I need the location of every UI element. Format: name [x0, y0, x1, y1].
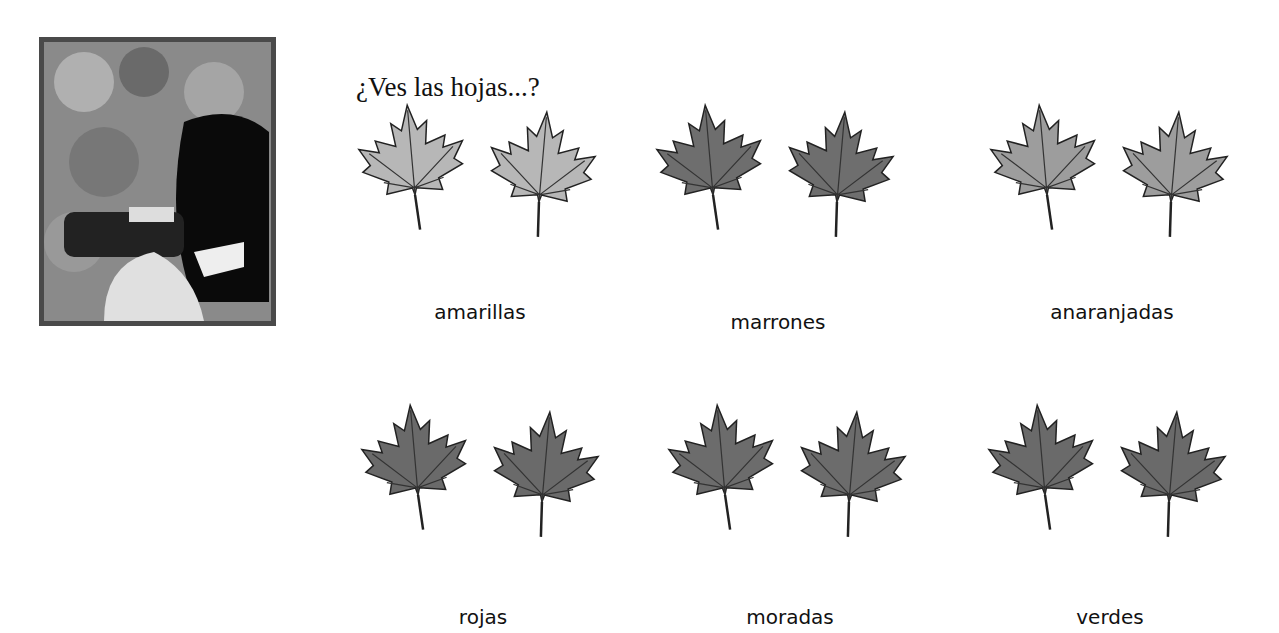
- leaf-color-label: amarillas: [330, 300, 630, 324]
- maple-leaves-icon: [340, 95, 620, 275]
- leaf-item-marrones: marrones: [628, 95, 928, 275]
- child-with-binoculars-photo: [39, 37, 276, 326]
- leaf-color-label: marrones: [628, 310, 928, 334]
- leaf-item-amarillas: amarillas: [330, 95, 630, 275]
- maple-leaves-icon: [343, 395, 623, 575]
- maple-leaves-icon: [970, 395, 1250, 575]
- maple-leaves-icon: [972, 95, 1252, 275]
- maple-leaves-icon: [650, 395, 930, 575]
- leaf-item-rojas: rojas: [333, 395, 633, 575]
- leaf-color-label: rojas: [333, 605, 633, 629]
- leaf-item-anaranjadas: anaranjadas: [962, 95, 1262, 275]
- leaf-color-label: verdes: [960, 605, 1260, 629]
- leaf-item-verdes: verdes: [960, 395, 1260, 575]
- leaf-color-label: anaranjadas: [962, 300, 1262, 324]
- leaf-item-moradas: moradas: [640, 395, 940, 575]
- maple-leaves-icon: [638, 95, 918, 275]
- leaf-color-label: moradas: [640, 605, 940, 629]
